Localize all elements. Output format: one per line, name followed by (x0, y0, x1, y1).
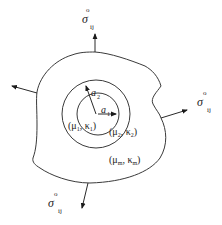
phase-2-label: (μ2, κ2) (109, 126, 137, 138)
stress-label-top: o σ ij (82, 6, 94, 31)
svg-text:(μm, κm): (μm, κm) (109, 154, 140, 166)
svg-text:o: o (54, 190, 58, 198)
svg-text:2: 2 (97, 94, 100, 100)
svg-text:σ: σ (48, 196, 55, 210)
stress-arrow-right (161, 110, 187, 118)
svg-text:o: o (203, 89, 207, 97)
svg-text:σ: σ (197, 95, 204, 109)
svg-text:σ: σ (82, 12, 89, 26)
svg-text:ij: ij (90, 23, 94, 31)
svg-text:ij: ij (207, 106, 211, 114)
matrix-label: (μm, κm) (109, 154, 140, 166)
stress-label-right: o σ ij (197, 89, 211, 114)
matrix-boundary (33, 52, 166, 183)
radius-label-a1: a 1 (101, 104, 110, 117)
composite-inclusion-diagram: o σ ij o σ ij o σ ij a 2 a 1 (μ1, κ1) (μ… (0, 0, 222, 225)
svg-text:(μ1, κ1): (μ1, κ1) (68, 120, 96, 132)
stress-label-bottom: o σ ij (48, 190, 62, 215)
phase-1-label: (μ1, κ1) (68, 120, 96, 132)
svg-text:a: a (91, 87, 96, 98)
stress-arrow-left (12, 86, 37, 93)
radius-label-a2: a 2 (91, 87, 100, 100)
svg-text:(μ2, κ2): (μ2, κ2) (109, 126, 137, 138)
svg-text:1: 1 (107, 111, 110, 117)
stress-arrow-bottom (82, 183, 88, 208)
svg-text:a: a (101, 104, 106, 115)
svg-text:ij: ij (58, 207, 62, 215)
